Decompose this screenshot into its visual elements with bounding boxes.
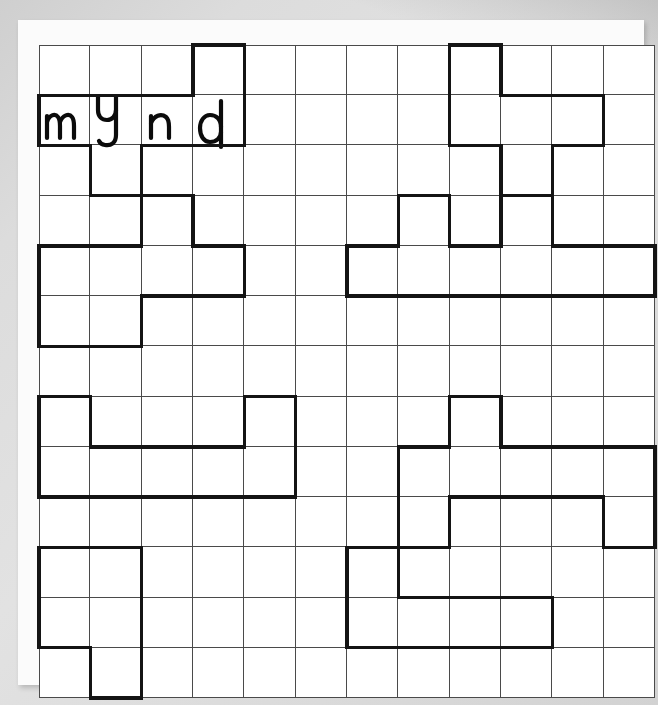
grid-cell-r6-c11[interactable]	[604, 346, 655, 396]
grid-cell-r10-c0[interactable]	[39, 547, 90, 597]
grid-cell-r8-c8[interactable]	[450, 447, 501, 497]
grid-cell-r12-c11[interactable]	[604, 648, 655, 698]
grid-cell-r7-c3[interactable]	[193, 397, 244, 447]
grid-cell-r8-c6[interactable]	[347, 447, 398, 497]
grid-cell-r11-c3[interactable]	[193, 598, 244, 648]
grid-cell-r5-c5[interactable]	[296, 296, 347, 346]
grid-cell-r11-c8[interactable]	[450, 598, 501, 648]
grid-cell-r2-c0[interactable]	[39, 145, 90, 195]
grid-cell-r12-c8[interactable]	[450, 648, 501, 698]
grid-cell-r1-c3[interactable]	[193, 95, 244, 145]
grid-cell-r9-c7[interactable]	[398, 497, 449, 547]
grid-cell-r8-c4[interactable]	[244, 447, 295, 497]
grid-cell-r12-c9[interactable]	[501, 648, 552, 698]
grid-cell-r4-c4[interactable]	[244, 246, 295, 296]
grid-cell-r12-c6[interactable]	[347, 648, 398, 698]
grid-cell-r8-c2[interactable]	[142, 447, 193, 497]
grid-cell-r10-c5[interactable]	[296, 547, 347, 597]
grid-cell-r11-c7[interactable]	[398, 598, 449, 648]
grid-cell-r7-c11[interactable]	[604, 397, 655, 447]
grid-cell-r5-c6[interactable]	[347, 296, 398, 346]
grid-cell-r5-c3[interactable]	[193, 296, 244, 346]
grid-cell-r1-c0[interactable]	[39, 95, 90, 145]
grid-cell-r6-c0[interactable]	[39, 346, 90, 396]
grid-cell-r6-c4[interactable]	[244, 346, 295, 396]
grid-cell-r4-c3[interactable]	[193, 246, 244, 296]
grid-cell-r10-c6[interactable]	[347, 547, 398, 597]
grid-cell-r7-c5[interactable]	[296, 397, 347, 447]
grid-cell-r10-c9[interactable]	[501, 547, 552, 597]
grid-cell-r6-c6[interactable]	[347, 346, 398, 396]
grid-cell-r8-c11[interactable]	[604, 447, 655, 497]
grid-cell-r3-c11[interactable]	[604, 196, 655, 246]
grid-cell-r3-c5[interactable]	[296, 196, 347, 246]
grid-cell-r4-c6[interactable]	[347, 246, 398, 296]
grid-cell-r2-c11[interactable]	[604, 145, 655, 195]
grid-cell-r8-c0[interactable]	[39, 447, 90, 497]
grid-cell-r6-c3[interactable]	[193, 346, 244, 396]
grid-cell-r7-c0[interactable]	[39, 397, 90, 447]
grid-cell-r4-c1[interactable]	[90, 246, 141, 296]
grid-cell-r2-c4[interactable]	[244, 145, 295, 195]
word-shape-grid[interactable]	[39, 45, 655, 698]
grid-cell-r1-c7[interactable]	[398, 95, 449, 145]
grid-cell-r11-c2[interactable]	[142, 598, 193, 648]
grid-cell-r3-c3[interactable]	[193, 196, 244, 246]
grid-cell-r1-c11[interactable]	[604, 95, 655, 145]
grid-cell-r12-c7[interactable]	[398, 648, 449, 698]
grid-cell-r2-c3[interactable]	[193, 145, 244, 195]
grid-cell-r0-c0[interactable]	[39, 45, 90, 95]
grid-cell-r10-c7[interactable]	[398, 547, 449, 597]
grid-cell-r4-c5[interactable]	[296, 246, 347, 296]
grid-cell-r7-c9[interactable]	[501, 397, 552, 447]
grid-cell-r12-c1[interactable]	[90, 648, 141, 698]
grid-cell-r6-c1[interactable]	[90, 346, 141, 396]
grid-cell-r1-c6[interactable]	[347, 95, 398, 145]
grid-cell-r4-c11[interactable]	[604, 246, 655, 296]
grid-cell-r5-c0[interactable]	[39, 296, 90, 346]
grid-cell-r5-c7[interactable]	[398, 296, 449, 346]
grid-cell-r10-c3[interactable]	[193, 547, 244, 597]
grid-cell-r6-c2[interactable]	[142, 346, 193, 396]
grid-cell-r9-c1[interactable]	[90, 497, 141, 547]
grid-cell-r12-c5[interactable]	[296, 648, 347, 698]
grid-cell-r5-c8[interactable]	[450, 296, 501, 346]
grid-cell-r1-c1[interactable]	[90, 95, 141, 145]
grid-cell-r11-c5[interactable]	[296, 598, 347, 648]
grid-cell-r6-c8[interactable]	[450, 346, 501, 396]
grid-cell-r3-c4[interactable]	[244, 196, 295, 246]
grid-cell-r0-c3[interactable]	[193, 45, 244, 95]
grid-cell-r0-c8[interactable]	[450, 45, 501, 95]
grid-cell-r2-c8[interactable]	[450, 145, 501, 195]
grid-cell-r10-c4[interactable]	[244, 547, 295, 597]
grid-cell-r9-c9[interactable]	[501, 497, 552, 547]
grid-cell-r2-c1[interactable]	[90, 145, 141, 195]
grid-cell-r6-c9[interactable]	[501, 346, 552, 396]
grid-cell-r1-c4[interactable]	[244, 95, 295, 145]
grid-cell-r8-c5[interactable]	[296, 447, 347, 497]
grid-cell-r10-c11[interactable]	[604, 547, 655, 597]
grid-cell-r2-c9[interactable]	[501, 145, 552, 195]
grid-cell-r4-c8[interactable]	[450, 246, 501, 296]
grid-cell-r12-c3[interactable]	[193, 648, 244, 698]
grid-cell-r6-c5[interactable]	[296, 346, 347, 396]
grid-cell-r9-c10[interactable]	[552, 497, 603, 547]
grid-cell-r0-c4[interactable]	[244, 45, 295, 95]
grid-cell-r11-c1[interactable]	[90, 598, 141, 648]
grid-cell-r0-c7[interactable]	[398, 45, 449, 95]
grid-cell-r5-c4[interactable]	[244, 296, 295, 346]
grid-cell-r5-c2[interactable]	[142, 296, 193, 346]
grid-cell-r2-c7[interactable]	[398, 145, 449, 195]
grid-cell-r11-c6[interactable]	[347, 598, 398, 648]
grid-cell-r9-c11[interactable]	[604, 497, 655, 547]
grid-cell-r1-c2[interactable]	[142, 95, 193, 145]
grid-cell-r4-c2[interactable]	[142, 246, 193, 296]
grid-cell-r7-c4[interactable]	[244, 397, 295, 447]
grid-cell-r10-c8[interactable]	[450, 547, 501, 597]
grid-cell-r9-c2[interactable]	[142, 497, 193, 547]
grid-cell-r9-c3[interactable]	[193, 497, 244, 547]
grid-cell-r12-c4[interactable]	[244, 648, 295, 698]
grid-cell-r5-c9[interactable]	[501, 296, 552, 346]
grid-cell-r12-c2[interactable]	[142, 648, 193, 698]
grid-cell-r0-c10[interactable]	[552, 45, 603, 95]
